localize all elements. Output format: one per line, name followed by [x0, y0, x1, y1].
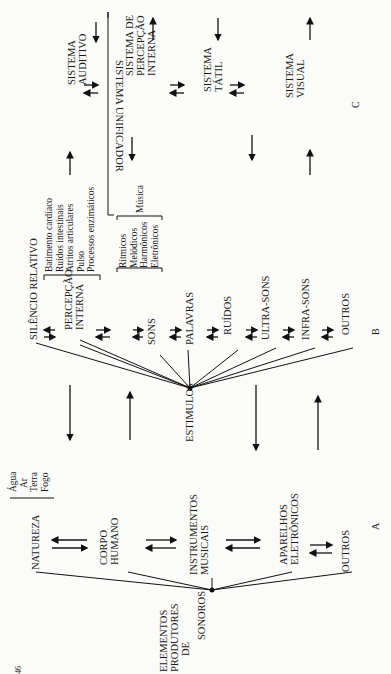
stimulus-infra-sons: INFRA-SONS: [300, 278, 311, 340]
system-visual: SISTEMA VISUAL: [284, 53, 306, 98]
section-c-label: C: [350, 101, 361, 108]
stimuli-root: ESTIMULOS: [184, 383, 195, 442]
sons-types-list: Rítmicos Melódicos Harmônicos Eletrônico…: [118, 222, 160, 268]
natureza-elements: Água Ar Terra Fogo: [8, 471, 50, 492]
stimulus-ultra-sons: ULTRA-SONS: [260, 276, 271, 340]
musica-label: Música: [135, 185, 146, 213]
producer-aparelhos: APARELHOS ELETRÔNICOS: [278, 493, 300, 565]
producer-corpo-humano: CORPO HUMANO: [98, 518, 120, 565]
stimulus-outros: OUTROS: [340, 293, 351, 335]
stimulus-ruidos: RUÍDOS: [222, 296, 233, 335]
producers-root-sonoros: SONOROS: [196, 591, 207, 640]
unifier-label: SISTEMA UNIFICADOR: [114, 60, 125, 172]
producer-outros: OUTROS: [340, 530, 351, 572]
stimulus-percepcao: PERCEPÇÃO INTERNA: [63, 269, 85, 330]
stimulus-sons: SONS: [146, 318, 157, 345]
stimulus-silencio: SILÊNCIO RELATIVO: [28, 238, 39, 340]
section-a-label: A: [370, 523, 381, 530]
internal-perception-list: Batimento cardíaco Ruídos intestinais At…: [44, 187, 97, 272]
system-tatil: SISTEMA TÁTIL: [202, 47, 224, 92]
system-percepcao-interna: SISTEMA DE PERCEPÇÃO INTERNA: [124, 15, 157, 76]
page-number: 46: [14, 666, 23, 674]
system-auditivo: SISTEMA AUDITIVO: [66, 34, 88, 85]
producer-natureza: NATUREZA: [30, 515, 41, 570]
producers-root: ELEMENTOS PRODUTORES DE: [158, 603, 191, 672]
producer-instrumentos: INSTRUMENTOS MUSICAIS: [188, 494, 210, 575]
section-b-label: B: [370, 328, 381, 335]
stimulus-palavras: PALAVRAS: [184, 292, 195, 345]
